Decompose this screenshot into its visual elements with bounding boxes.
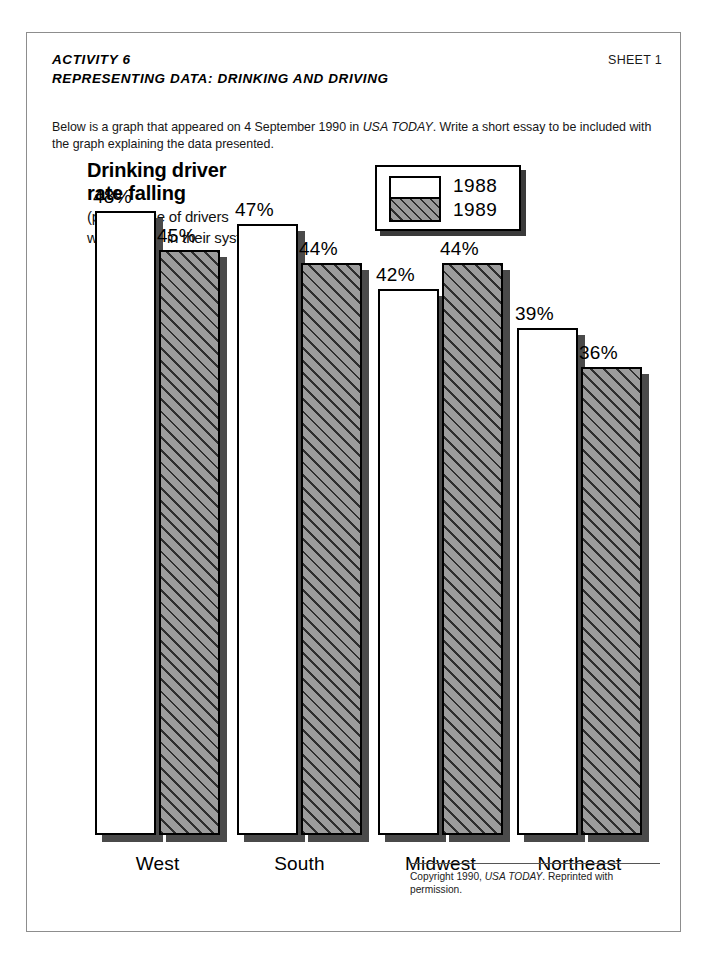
bar-northeast-1989: 36% — [581, 367, 642, 835]
bar-value-label: 39% — [515, 303, 554, 325]
bar-rect — [517, 328, 578, 835]
category-label-west: West — [95, 853, 220, 875]
bar-rect — [237, 224, 298, 835]
bar-south-1988: 47% — [237, 224, 298, 835]
bar-northeast-1988: 39% — [517, 328, 578, 835]
bar-rect — [442, 263, 503, 835]
sheet-number: SHEET 1 — [608, 53, 662, 67]
bar-group-west: 48%45%West — [95, 215, 228, 835]
activity-title: ACTIVITY 6 — [52, 50, 662, 69]
bar-west-1988: 48% — [95, 211, 156, 835]
copyright-note: Copyright 1990, USA TODAY. Reprinted wit… — [410, 863, 660, 896]
activity-subtitle: REPRESENTING DATA: DRINKING AND DRIVING — [52, 69, 662, 88]
worksheet-page: ACTIVITY 6 REPRESENTING DATA: DRINKING A… — [26, 32, 681, 932]
bar-value-label: 48% — [93, 186, 132, 208]
bar-rect — [95, 211, 156, 835]
bar-value-label: 47% — [235, 199, 274, 221]
copyright-source-name: USA TODAY — [485, 871, 543, 882]
bar-value-label: 36% — [579, 342, 618, 364]
bar-midwest-1989: 44% — [442, 263, 503, 835]
bar-rect — [159, 250, 220, 835]
chart-plot-area: 48%45%West47%44%South42%44%Midwest39%36%… — [27, 145, 680, 931]
copyright-part1: Copyright 1990, — [410, 871, 485, 882]
bar-south-1989: 44% — [301, 263, 362, 835]
bar-rect — [581, 367, 642, 835]
intro-text-part1: Below is a graph that appeared on 4 Sept… — [52, 120, 363, 134]
bar-chart: Drinking driver rate falling (percentage… — [27, 145, 680, 931]
worksheet-header: ACTIVITY 6 REPRESENTING DATA: DRINKING A… — [52, 50, 662, 96]
bar-group-south: 47%44%South — [237, 215, 370, 835]
bar-value-label: 42% — [376, 264, 415, 286]
bar-value-label: 44% — [299, 238, 338, 260]
category-label-south: South — [237, 853, 362, 875]
bar-rect — [301, 263, 362, 835]
bar-rect — [378, 289, 439, 835]
bar-west-1989: 45% — [159, 250, 220, 835]
bar-group-midwest: 42%44%Midwest — [378, 215, 511, 835]
intro-source-name: USA TODAY — [363, 120, 433, 134]
bar-group-northeast: 39%36%Northeast — [517, 215, 650, 835]
bar-value-label: 45% — [157, 225, 196, 247]
bar-value-label: 44% — [440, 238, 479, 260]
bar-midwest-1988: 42% — [378, 289, 439, 835]
